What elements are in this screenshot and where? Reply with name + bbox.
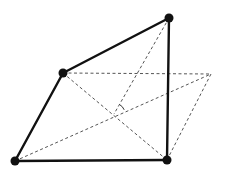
- edge-bottom-left-bottom-right: [15, 160, 167, 161]
- dashed-edge-left-middle-bottom-right: [63, 73, 167, 160]
- angle-arc: [120, 105, 125, 110]
- edge-bottom-right-top-right: [167, 18, 169, 160]
- vertices: [11, 14, 174, 166]
- dashed-lines: [15, 18, 211, 161]
- vertex-left-middle: [59, 69, 68, 78]
- dashed-edge-left-middle-parallelogram-corner: [63, 73, 211, 74]
- vertex-top-right: [165, 14, 174, 23]
- edge-left-middle-bottom-left: [15, 73, 63, 161]
- vertex-bottom-right: [163, 156, 172, 165]
- dashed-edge-parallelogram-corner-bottom-right: [167, 74, 211, 160]
- solid-edges: [15, 18, 169, 161]
- geometry-diagram: [0, 0, 228, 183]
- vertex-bottom-left: [11, 157, 20, 166]
- edge-top-right-left-middle: [63, 18, 169, 73]
- dashed-edge-bottom-left-parallelogram-corner: [15, 74, 211, 161]
